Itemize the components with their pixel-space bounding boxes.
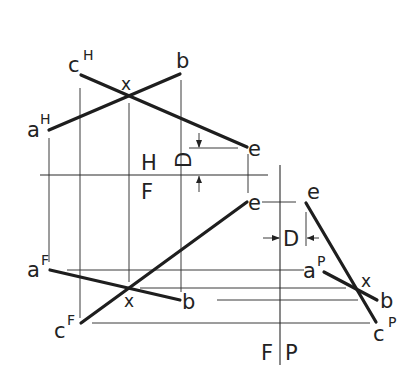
fold-label-f-top: F (141, 180, 153, 204)
label-a-top: a (27, 118, 40, 142)
label-d-top: D (172, 152, 196, 168)
label-c-front: c (54, 319, 66, 343)
fold-label-p: P (285, 341, 298, 365)
label-a-top-sup: H (40, 111, 51, 127)
label-x-top: x (121, 74, 131, 94)
label-a-front: a (27, 258, 40, 282)
label-c-top-sup: H (83, 47, 94, 63)
fold-label-h: H (141, 151, 157, 175)
label-b-profile: b (380, 289, 393, 313)
dimension-arrow-up-icon (196, 176, 202, 183)
label-x-profile: x (361, 271, 371, 291)
label-c-top: c (68, 53, 80, 77)
label-e-top: e (248, 137, 261, 161)
front-view: a F c F b x e (27, 191, 261, 343)
profile-view: e a P x b c P D (263, 180, 396, 346)
label-x-front: x (124, 291, 134, 311)
fold-label-f-right: F (261, 341, 273, 365)
label-a-profile: a (303, 259, 316, 283)
label-c-profile: c (373, 322, 385, 346)
label-b-front: b (182, 290, 195, 314)
line-ab-top (49, 74, 180, 130)
label-a-profile-sup: P (317, 253, 325, 269)
line-ce-front (81, 202, 247, 323)
line-ce-top (81, 75, 247, 147)
line-ab-front (50, 270, 180, 300)
dimension-arrow-left-icon (307, 235, 314, 241)
label-e-profile: e (307, 180, 320, 204)
dimension-arrow-right-icon (272, 235, 280, 241)
dimension-arrow-down-icon (196, 140, 202, 148)
label-d-profile: D (283, 227, 299, 251)
projection-diagram: H F F P a H c H b x e D a F c F b x e e (0, 0, 418, 374)
label-b-top: b (176, 49, 189, 73)
label-a-front-sup: F (41, 252, 49, 268)
label-e-front: e (248, 191, 261, 215)
label-c-front-sup: F (67, 312, 75, 328)
label-c-profile-sup: P (388, 314, 396, 330)
